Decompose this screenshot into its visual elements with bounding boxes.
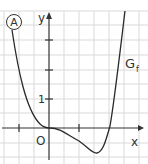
grid: [0, 11, 148, 164]
y-axis-arrow-icon: [46, 12, 52, 19]
y-tick-label-1: 1: [38, 93, 45, 106]
y-axis-label: y: [38, 11, 45, 25]
y-axis: [45, 18, 53, 160]
x-axis-label: x: [131, 135, 138, 149]
x-axis-arrow-icon: [138, 125, 144, 131]
panel-label: A: [10, 16, 18, 29]
function-curve: [12, 11, 125, 153]
origin-label: O: [36, 134, 45, 148]
x-axis: [2, 124, 138, 132]
graph-label: G: [125, 56, 135, 71]
function-graph: A y x 1 O G f: [0, 0, 148, 164]
graph-label-subscript: f: [136, 65, 139, 74]
